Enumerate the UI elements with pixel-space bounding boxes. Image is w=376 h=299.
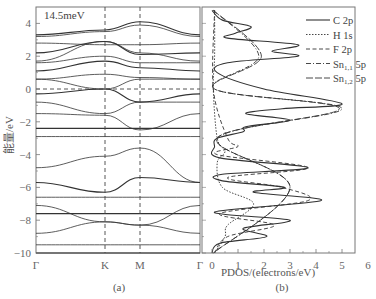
pdos-curves bbox=[211, 10, 342, 253]
x-tick-label: K bbox=[101, 259, 109, 271]
y-tick-label: 4 bbox=[26, 17, 32, 29]
y-axis-label: 能量/eV bbox=[2, 116, 15, 154]
legend-label: C 2p bbox=[333, 15, 353, 26]
band-line bbox=[36, 56, 200, 63]
x-axis-label: PDOS/(electrons/eV) bbox=[221, 266, 315, 279]
legend-label: Sn1,2 5p bbox=[333, 73, 366, 86]
pdos-panel: 0123456 PDOS/(electrons/eV) (b) C 2pH 1s… bbox=[202, 7, 371, 294]
x-tick-label: 6 bbox=[365, 259, 371, 271]
legend-label: F 2p bbox=[333, 44, 352, 55]
legend: C 2pH 1sF 2pSn1,1 5pSn1,2 5p bbox=[306, 15, 366, 86]
band-line bbox=[36, 89, 200, 102]
y-tick-label: −10 bbox=[14, 247, 32, 259]
band-structure-panel: 420−2−4−6−8−10 ΓKMΓ 14.5meV 能量/eV (a) bbox=[2, 7, 203, 294]
band-line bbox=[36, 79, 200, 89]
band-line bbox=[36, 74, 200, 79]
x-tick-label: Γ bbox=[33, 259, 39, 271]
y-tick-label: −4 bbox=[19, 149, 31, 161]
band-line bbox=[36, 102, 200, 113]
x-tick-label: 0 bbox=[209, 259, 215, 271]
x-tick-label: Γ bbox=[197, 259, 203, 271]
y-tick-label: 2 bbox=[26, 50, 32, 62]
band-line bbox=[36, 114, 200, 130]
band-line bbox=[36, 178, 200, 193]
gap-annotation: 14.5meV bbox=[44, 9, 85, 21]
band-x-axis: ΓKMΓ bbox=[33, 259, 203, 271]
x-tick-label: M bbox=[135, 259, 145, 271]
y-tick-label: −2 bbox=[19, 116, 31, 128]
legend-label: Sn1,1 5p bbox=[333, 59, 366, 72]
band-line bbox=[36, 148, 200, 182]
legend-label: H 1s bbox=[333, 30, 353, 41]
pdos-curve bbox=[213, 10, 340, 253]
panel-a-label: (a) bbox=[113, 281, 126, 294]
pdos-y-ticks bbox=[202, 23, 206, 253]
figure: 420−2−4−6−8−10 ΓKMΓ 14.5meV 能量/eV (a) 01… bbox=[0, 0, 376, 299]
band-line bbox=[36, 205, 200, 225]
panel-b-label: (b) bbox=[276, 281, 289, 294]
band-lines bbox=[36, 22, 200, 253]
x-tick-label: 5 bbox=[339, 259, 345, 271]
pdos-curve bbox=[212, 10, 342, 253]
y-tick-label: 0 bbox=[26, 83, 32, 95]
band-line bbox=[36, 222, 200, 233]
pdos-curve bbox=[211, 10, 342, 253]
y-tick-label: −6 bbox=[19, 181, 31, 193]
y-tick-label: −8 bbox=[19, 214, 31, 226]
